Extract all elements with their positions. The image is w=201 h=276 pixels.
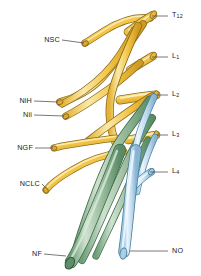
label-nclc: NCLC (0, 180, 40, 187)
label-nsc: NSC (0, 36, 60, 43)
label-t12-sub: 12 (177, 13, 183, 19)
leader-nih (34, 101, 58, 102)
label-no-text: NO (172, 246, 183, 255)
label-nii-text: Nii (23, 110, 32, 119)
label-nclc-text: NCLC (20, 179, 40, 188)
label-nf: NF (0, 250, 42, 257)
label-t12: T12 (172, 11, 183, 18)
label-l3: L3 (172, 130, 179, 137)
leader-nsc (62, 40, 84, 43)
label-l1: L1 (172, 52, 179, 59)
label-nii: Nii (0, 111, 32, 118)
label-l4-sub: 4 (176, 169, 179, 175)
label-t12-text: T (172, 10, 177, 19)
label-nih-text: NiH (19, 96, 32, 105)
leader-nf (44, 254, 66, 256)
label-l3-sub: 3 (176, 132, 179, 138)
label-ngf-text: NGF (17, 143, 33, 152)
label-l4: L4 (172, 167, 179, 174)
leader-nii (34, 115, 64, 116)
label-ngf: NGF (0, 144, 33, 151)
label-nf-text: NF (32, 249, 42, 258)
label-no: NO (172, 247, 183, 254)
label-l2: L2 (172, 90, 179, 97)
nerve-tip-l1 (149, 51, 157, 60)
label-nsc-text: NSC (44, 35, 60, 44)
label-l1-sub: 1 (176, 54, 179, 60)
nerve-tip-t12 (149, 10, 158, 20)
label-nih: NiH (0, 97, 32, 104)
label-l2-sub: 2 (176, 92, 179, 98)
